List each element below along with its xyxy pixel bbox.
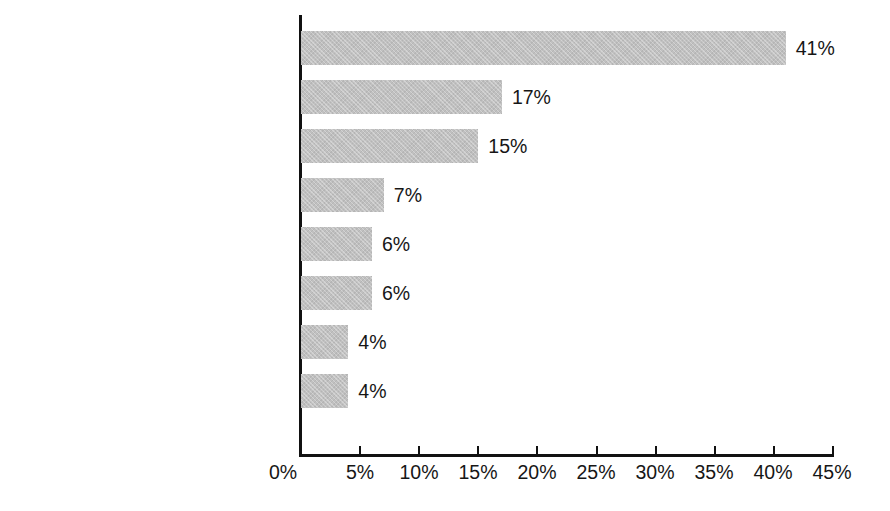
x-axis-tick (359, 446, 361, 455)
x-axis-tick (596, 446, 598, 455)
bar (301, 31, 786, 65)
x-axis-tick-label: 0% (243, 461, 323, 484)
bar (301, 129, 478, 163)
bar-row: Other goods and services 4% (301, 374, 833, 408)
bar-chart: Housing 41% Transportation 17% Food and … (0, 0, 890, 511)
x-axis-tick (714, 446, 716, 455)
bar-row: Medical care 7% (301, 178, 833, 212)
bar (301, 80, 502, 114)
bar-row: Recreation 6% (301, 276, 833, 310)
bar-row: Housing 41% (301, 31, 833, 65)
bar-row: Transportation 17% (301, 80, 833, 114)
x-axis-tick (832, 446, 834, 455)
plot-area: Housing 41% Transportation 17% Food and … (301, 15, 833, 455)
x-axis-tick (477, 446, 479, 455)
x-axis-tick (418, 446, 420, 455)
bar-value-label: 6% (382, 276, 410, 310)
bar (301, 276, 372, 310)
x-axis-tick-label: 45% (792, 461, 872, 484)
bar (301, 227, 372, 261)
bar-value-label: 7% (394, 178, 422, 212)
bar (301, 178, 384, 212)
bar-value-label: 6% (382, 227, 410, 261)
bar-row: Education and communication 6% (301, 227, 833, 261)
bar (301, 374, 348, 408)
bar-row: Apparel 4% (301, 325, 833, 359)
x-axis-tick (655, 446, 657, 455)
bar-value-label: 15% (488, 129, 527, 163)
bar-value-label: 17% (512, 80, 551, 114)
bar-row: Food and beverage 15% (301, 129, 833, 163)
bar-value-label: 4% (358, 374, 386, 408)
x-axis-tick (536, 446, 538, 455)
bar-value-label: 4% (358, 325, 386, 359)
x-axis-tick (773, 446, 775, 455)
bar-value-label: 41% (796, 31, 835, 65)
bar (301, 325, 348, 359)
